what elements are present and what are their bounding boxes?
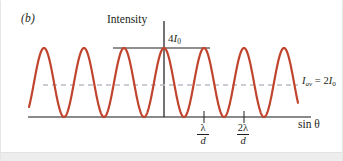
average-intensity-label: Iav = 2I0 <box>302 75 336 88</box>
interference-intensity-figure: (b) Intensity sin θ 4I0 Iav = 2I0 λ d 2λ… <box>0 0 343 161</box>
figure-footer-band <box>1 152 343 161</box>
x-tick-label-2lambda-over-d: 2λ d <box>226 123 260 147</box>
x-tick-label-lambda-over-d: λ d <box>186 123 220 147</box>
intensity-plot-svg <box>1 1 343 161</box>
peak-subscript: 0 <box>177 37 181 46</box>
fraction-denominator: d <box>226 136 260 147</box>
average-equals: = 2 <box>312 75 328 86</box>
peak-intensity-label: 4I0 <box>168 32 181 46</box>
y-axis-title: Intensity <box>107 13 147 25</box>
fraction-denominator: d <box>186 136 220 147</box>
fraction-numerator: λ <box>186 123 220 134</box>
panel-label: (b) <box>21 12 35 24</box>
fraction-numerator: 2λ <box>226 123 260 134</box>
average-value-subscript: 0 <box>332 80 336 88</box>
x-axis-title: sin θ <box>298 118 320 130</box>
